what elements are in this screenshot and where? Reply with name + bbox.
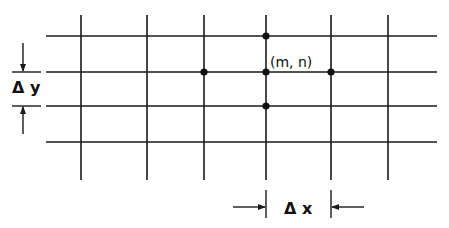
finite-difference-grid-diagram: (m, n) Δ y Δ x: [0, 0, 449, 228]
node-right: [327, 68, 334, 75]
node-center: [262, 68, 269, 75]
delta-x-dimension: Δ x: [233, 190, 364, 218]
delta-x-label: Δ x: [284, 199, 313, 218]
horizontal-grid-lines: [46, 36, 437, 142]
vertical-grid-lines: [81, 15, 388, 180]
node-left: [200, 68, 207, 75]
node-top: [262, 32, 269, 39]
stencil-nodes: [200, 32, 334, 109]
node-bottom: [262, 102, 269, 109]
delta-y-dimension: Δ y: [12, 43, 41, 134]
center-node-label: (m, n): [270, 54, 312, 70]
delta-y-label: Δ y: [12, 78, 41, 97]
